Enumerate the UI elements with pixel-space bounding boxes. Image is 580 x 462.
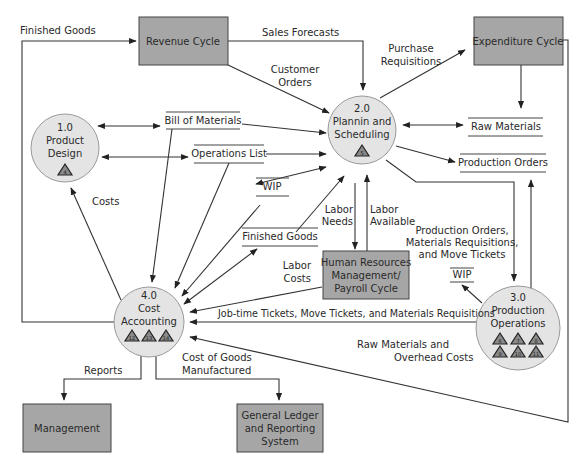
store-raw-materials[interactable]: Raw Materials bbox=[468, 118, 543, 136]
p1-line2: Design bbox=[48, 148, 83, 159]
production-orders-label: Production Orders bbox=[458, 157, 548, 168]
store-production-orders[interactable]: Production Orders bbox=[458, 154, 548, 172]
entity-hr-payroll[interactable]: Human Resources Management/ Payroll Cycl… bbox=[321, 251, 411, 299]
svg-text:12: 12 bbox=[129, 335, 135, 341]
revenue-cycle-label: Revenue Cycle bbox=[146, 36, 220, 47]
label-customer-orders-2: Orders bbox=[278, 77, 312, 88]
bom-label: Bill of Materials bbox=[164, 115, 241, 126]
p1-number: 1.0 bbox=[57, 122, 73, 133]
process-planning-scheduling[interactable]: 2.0 Plannin and Scheduling 5 bbox=[328, 96, 396, 164]
svg-text:11: 11 bbox=[533, 351, 539, 357]
p3-line1: Production bbox=[491, 305, 544, 316]
label-labor-available-1: Labor bbox=[370, 204, 399, 215]
p2-line1: Plannin and bbox=[333, 116, 392, 127]
gl-label-line1: General Ledger bbox=[241, 410, 319, 421]
p1-line1: Product bbox=[46, 135, 84, 146]
hr-label-line3: Payroll Cycle bbox=[334, 283, 398, 294]
data-flow-diagram: Revenue Cycle Expenditure Cycle Human Re… bbox=[0, 0, 580, 462]
raw-materials-label: Raw Materials bbox=[471, 121, 541, 132]
label-labor-needs-1: Labor bbox=[325, 204, 354, 215]
finished-goods-label: Finished Goods bbox=[242, 231, 318, 242]
svg-text:13: 13 bbox=[146, 335, 152, 341]
flow-planning-production-orders bbox=[396, 146, 455, 162]
svg-text:10: 10 bbox=[515, 351, 521, 357]
svg-text:9: 9 bbox=[498, 351, 501, 357]
store-finished-goods[interactable]: Finished Goods bbox=[242, 228, 318, 246]
label-costs: Costs bbox=[92, 196, 119, 207]
svg-text:6: 6 bbox=[498, 338, 501, 344]
label-prod-orders-1: Production Orders, bbox=[415, 225, 508, 236]
management-label: Management bbox=[34, 423, 100, 434]
store-operations-list[interactable]: Operations List bbox=[191, 145, 267, 163]
label-labor-needs-2: Needs bbox=[322, 216, 353, 227]
flow-cost-finished-goods bbox=[184, 249, 257, 304]
p2-line2: Scheduling bbox=[334, 129, 389, 140]
label-labor-costs-1: Labor bbox=[283, 260, 312, 271]
oplist-label: Operations List bbox=[191, 148, 267, 159]
label-labor-costs-2: Costs bbox=[284, 273, 311, 284]
gl-label-line3: System bbox=[261, 436, 298, 447]
svg-text:4: 4 bbox=[63, 169, 66, 175]
p4-line1: Cost bbox=[138, 303, 160, 314]
flow-labels: Finished Goods Sales Forecasts Customer … bbox=[20, 25, 518, 376]
expenditure-cycle-label: Expenditure Cycle bbox=[472, 36, 563, 47]
flow-reports bbox=[64, 356, 141, 400]
label-purchase-req-1: Purchase bbox=[388, 43, 433, 54]
entity-management[interactable]: Management bbox=[23, 404, 111, 452]
label-raw-mat-overhead-2: Overhead Costs bbox=[394, 352, 473, 363]
warning-triangle-icon: 12 13 14 bbox=[125, 330, 173, 341]
p2-number: 2.0 bbox=[354, 103, 370, 114]
label-finished-goods: Finished Goods bbox=[20, 25, 96, 36]
label-cogm-1: Cost of Goods bbox=[182, 352, 252, 363]
label-purchase-req-2: Requisitions bbox=[381, 56, 441, 67]
entity-revenue-cycle[interactable]: Revenue Cycle bbox=[139, 17, 228, 65]
hr-label-line2: Management/ bbox=[331, 270, 401, 281]
label-sales-forecasts: Sales Forecasts bbox=[262, 27, 339, 38]
flow-wip-cost bbox=[182, 205, 260, 296]
p3-line2: Operations bbox=[491, 318, 546, 329]
flow-bom-cost bbox=[152, 129, 172, 282]
gl-label-line2: and Reporting bbox=[245, 423, 316, 434]
label-job-time-tickets: Job-time Tickets, Move Tickets, and Mate… bbox=[217, 308, 495, 319]
flow-finished-goods-to-revenue bbox=[22, 41, 136, 322]
svg-text:8: 8 bbox=[534, 338, 537, 344]
label-cogm-2: Manufactured bbox=[182, 365, 251, 376]
store-wip-right[interactable]: WIP bbox=[450, 268, 474, 282]
label-raw-mat-overhead-1: Raw Materials and bbox=[357, 339, 449, 350]
label-reports: Reports bbox=[84, 365, 122, 376]
svg-text:14: 14 bbox=[163, 335, 169, 341]
p3-number: 3.0 bbox=[510, 292, 526, 303]
flow-oplist-cost bbox=[175, 163, 229, 288]
label-labor-available-2: Available bbox=[370, 216, 415, 227]
store-wip-left[interactable]: WIP bbox=[256, 178, 289, 196]
process-cost-accounting[interactable]: 4.0 Cost Accounting 12 13 14 bbox=[114, 287, 184, 357]
wip-left-label: WIP bbox=[263, 181, 282, 192]
process-production-operations[interactable]: 3.0 Production Operations 6 7 8 9 10 11 bbox=[476, 286, 560, 370]
svg-text:7: 7 bbox=[516, 338, 519, 344]
flow-prodops-wip bbox=[462, 285, 482, 303]
flow-bom-planning bbox=[242, 124, 326, 133]
p4-number: 4.0 bbox=[141, 290, 157, 301]
hr-label-line1: Human Resources bbox=[321, 257, 411, 268]
svg-text:5: 5 bbox=[360, 150, 363, 156]
entity-expenditure-cycle[interactable]: Expenditure Cycle bbox=[472, 17, 563, 65]
label-prod-orders-2: Materials Requisitions, bbox=[406, 237, 519, 248]
p4-line2: Accounting bbox=[121, 316, 177, 327]
label-customer-orders-1: Customer bbox=[271, 64, 320, 75]
store-bill-of-materials[interactable]: Bill of Materials bbox=[164, 112, 241, 129]
label-prod-orders-3: and Move Tickets bbox=[419, 249, 506, 260]
entity-general-ledger[interactable]: General Ledger and Reporting System bbox=[237, 404, 323, 452]
wip-right-label: WIP bbox=[453, 269, 472, 280]
process-product-design[interactable]: 1.0 Product Design 4 bbox=[31, 114, 99, 182]
